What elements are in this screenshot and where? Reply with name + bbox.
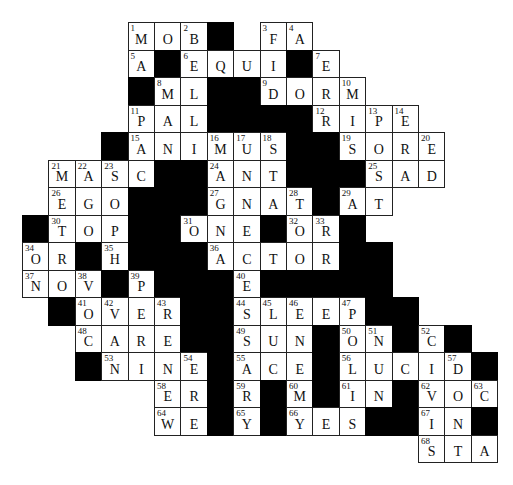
grid-cell[interactable]: 34O — [22, 242, 49, 271]
grid-cell[interactable]: A — [392, 160, 419, 189]
grid-cell[interactable]: T — [260, 160, 287, 189]
grid-cell[interactable]: 56L — [339, 352, 366, 381]
grid-cell[interactable]: O — [286, 77, 313, 106]
grid-cell[interactable]: 58E — [154, 380, 181, 409]
grid-cell[interactable]: 1M — [128, 22, 155, 51]
grid-cell[interactable]: N — [233, 160, 260, 189]
grid-cell[interactable]: 36A — [207, 242, 234, 271]
grid-cell[interactable]: 15A — [128, 132, 155, 161]
grid-cell[interactable]: E — [128, 297, 155, 326]
grid-cell[interactable]: 37N — [22, 270, 49, 299]
grid-cell[interactable]: S — [339, 407, 366, 436]
grid-cell[interactable]: U — [233, 50, 260, 79]
grid-cell[interactable]: A — [101, 325, 128, 354]
grid-cell[interactable]: N — [207, 215, 234, 244]
grid-cell[interactable]: 48C — [75, 325, 102, 354]
grid-cell[interactable]: I — [260, 50, 287, 79]
grid-cell[interactable]: 43R — [154, 297, 181, 326]
grid-cell[interactable]: T — [444, 435, 471, 464]
grid-cell[interactable]: A — [154, 105, 181, 134]
grid-cell[interactable]: 16M — [207, 132, 234, 161]
grid-cell[interactable]: 20E — [418, 132, 445, 161]
grid-cell[interactable]: 39P — [128, 270, 155, 299]
grid-cell[interactable]: 9D — [260, 77, 287, 106]
grid-cell[interactable]: O — [48, 270, 75, 299]
grid-cell[interactable]: 12R — [312, 105, 339, 134]
grid-cell[interactable]: E — [312, 297, 339, 326]
grid-cell[interactable]: E — [233, 215, 260, 244]
grid-cell[interactable]: E — [154, 325, 181, 354]
grid-cell[interactable]: 6E — [180, 50, 207, 79]
grid-cell[interactable]: 49S — [233, 325, 260, 354]
grid-cell[interactable]: N — [365, 380, 392, 409]
grid-cell[interactable]: 10M — [339, 77, 366, 106]
grid-cell[interactable]: 66Y — [286, 407, 313, 436]
grid-cell[interactable]: 45L — [260, 297, 287, 326]
grid-cell[interactable]: 55A — [233, 352, 260, 381]
grid-cell[interactable]: E — [312, 407, 339, 436]
grid-cell[interactable]: 24A — [207, 160, 234, 189]
grid-cell[interactable]: C — [233, 242, 260, 271]
grid-cell[interactable]: D — [418, 160, 445, 189]
grid-cell[interactable]: T — [365, 187, 392, 216]
grid-cell[interactable]: 38V — [75, 270, 102, 299]
grid-cell[interactable]: C — [128, 160, 155, 189]
grid-cell[interactable]: N — [444, 407, 471, 436]
grid-cell[interactable]: 42V — [101, 297, 128, 326]
grid-cell[interactable]: A — [260, 187, 287, 216]
grid-cell[interactable]: 21M — [48, 160, 75, 189]
grid-cell[interactable]: 64W — [154, 407, 181, 436]
grid-cell[interactable]: 29A — [339, 187, 366, 216]
grid-cell[interactable]: O — [101, 187, 128, 216]
grid-cell[interactable]: 22A — [75, 160, 102, 189]
grid-cell[interactable]: 14E — [392, 105, 419, 134]
grid-cell[interactable]: 23S — [101, 160, 128, 189]
grid-cell[interactable]: G — [75, 187, 102, 216]
grid-cell[interactable]: 11P — [128, 105, 155, 134]
grid-cell[interactable]: 13P — [365, 105, 392, 134]
grid-cell[interactable]: 3F — [260, 22, 287, 51]
grid-cell[interactable]: R — [180, 380, 207, 409]
grid-cell[interactable]: R — [392, 132, 419, 161]
grid-cell[interactable]: 44S — [233, 297, 260, 326]
grid-cell[interactable]: E — [180, 407, 207, 436]
grid-cell[interactable]: 2B — [180, 22, 207, 51]
grid-cell[interactable]: 59R — [233, 380, 260, 409]
grid-cell[interactable]: U — [260, 325, 287, 354]
grid-cell[interactable]: U — [365, 352, 392, 381]
grid-cell[interactable]: 18S — [260, 132, 287, 161]
grid-cell[interactable]: E — [286, 352, 313, 381]
grid-cell[interactable]: I — [128, 352, 155, 381]
grid-cell[interactable]: 46E — [286, 297, 313, 326]
grid-cell[interactable]: 50O — [339, 325, 366, 354]
grid-cell[interactable]: O — [365, 132, 392, 161]
grid-cell[interactable]: 47P — [339, 297, 366, 326]
grid-cell[interactable]: 4A — [286, 22, 313, 51]
grid-cell[interactable]: R — [48, 242, 75, 271]
grid-cell[interactable]: L — [180, 77, 207, 106]
grid-cell[interactable]: 62V — [418, 380, 445, 409]
grid-cell[interactable]: 17U — [233, 132, 260, 161]
grid-cell[interactable]: I — [418, 352, 445, 381]
grid-cell[interactable]: 53N — [101, 352, 128, 381]
grid-cell[interactable]: C — [392, 352, 419, 381]
grid-cell[interactable]: 8M — [154, 77, 181, 106]
grid-cell[interactable]: 30T — [48, 215, 75, 244]
grid-cell[interactable]: Q — [207, 50, 234, 79]
grid-cell[interactable]: R — [312, 242, 339, 271]
grid-cell[interactable]: 63C — [471, 380, 498, 409]
grid-cell[interactable]: 52C — [418, 325, 445, 354]
grid-cell[interactable]: I — [180, 132, 207, 161]
grid-cell[interactable]: 41O — [75, 297, 102, 326]
grid-cell[interactable]: N — [154, 352, 181, 381]
grid-cell[interactable]: 40E — [233, 270, 260, 299]
grid-cell[interactable]: O — [75, 215, 102, 244]
grid-cell[interactable]: 31O — [180, 215, 207, 244]
grid-cell[interactable]: O — [286, 242, 313, 271]
grid-cell[interactable]: 51N — [365, 325, 392, 354]
grid-cell[interactable]: 7E — [312, 50, 339, 79]
grid-cell[interactable]: I — [339, 105, 366, 134]
grid-cell[interactable]: N — [154, 132, 181, 161]
grid-cell[interactable]: N — [286, 325, 313, 354]
grid-cell[interactable]: 32O — [286, 215, 313, 244]
